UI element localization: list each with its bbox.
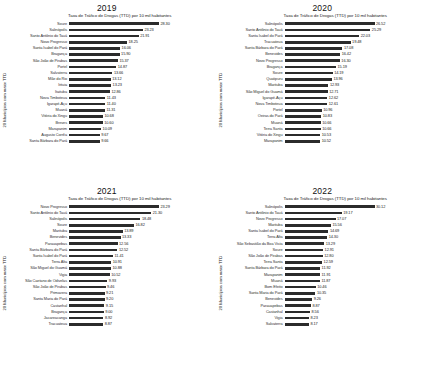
multi-panel-bar-chart-figure: 2019 Taxa de Tráfico de Drogas (TTD) por… <box>0 0 431 366</box>
bar <box>285 22 375 25</box>
bar <box>69 47 120 50</box>
bar-row: Marapanim10.52 <box>225 138 428 144</box>
axis-title-2019: Taxa de Tráfico de Drogas (TTD) por 10 m… <box>28 14 212 19</box>
plot-area-2021: 20 Municípios com maior TTD Novo Progres… <box>2 203 212 364</box>
bar <box>285 311 311 314</box>
bar <box>69 317 103 320</box>
bar <box>69 109 105 112</box>
bar <box>69 242 118 245</box>
bar <box>69 212 151 215</box>
bar <box>69 53 120 56</box>
bar <box>69 280 107 283</box>
bar <box>69 35 139 38</box>
bar-value-label: 8.17 <box>309 321 318 327</box>
bar-list-2021: Novo Progresso23.29Santo Antônio do Tauá… <box>9 203 212 364</box>
bar <box>285 292 316 295</box>
bar <box>69 311 104 314</box>
bar-list-2019: Soure28.30Salinópolis23.23Santo Antônio … <box>9 20 212 181</box>
bar <box>285 249 324 252</box>
bar <box>285 261 323 264</box>
bar <box>285 255 323 258</box>
plot-area-2022: 20 Municípios com maior TTD Salinópolis3… <box>218 203 428 364</box>
panel-2021: 2021 Taxa de Tráfico de Drogas (TTD) por… <box>0 183 216 366</box>
plot-area-2019: 20 Municípios com maior TTD Soure28.30Sa… <box>2 20 212 181</box>
bar <box>285 66 337 69</box>
bar-track: 10.52 <box>285 138 428 144</box>
axis-title-2021: Taxa de Tráfico de Drogas (TTD) por 10 m… <box>28 197 212 202</box>
bar <box>69 267 111 270</box>
bar-value-label: 10.52 <box>320 138 331 144</box>
panel-2019: 2019 Taxa de Tráfico de Drogas (TTD) por… <box>0 0 216 183</box>
bar <box>285 267 321 270</box>
bar <box>285 84 329 87</box>
bar <box>285 140 321 143</box>
bar <box>285 317 310 320</box>
bar-row: Santa Bárbara do Pará9.66 <box>9 138 212 144</box>
bar <box>285 47 343 50</box>
bar-category-label: Tracuateua <box>9 321 69 327</box>
bar <box>69 236 121 239</box>
y-axis-label-2022: 20 Municípios com maior TTD <box>218 203 225 364</box>
bar-list-2020: Salinópolis26.52Santo Antônio do Tauá25.… <box>225 20 428 181</box>
bar <box>285 103 328 106</box>
y-axis-label-2021: 20 Municípios com maior TTD <box>2 203 9 364</box>
bar <box>285 90 328 93</box>
bar <box>285 72 333 75</box>
bar-row: Tracuateua8.87 <box>9 321 212 327</box>
bar <box>69 103 105 106</box>
panel-2022: 2022 Taxa de Tráfico de Drogas (TTD) por… <box>216 183 431 366</box>
bar-value-label: 8.87 <box>103 321 112 327</box>
bar <box>69 134 100 137</box>
bar <box>285 280 320 283</box>
bar-category-label: Salvaterra <box>225 321 285 327</box>
bar-list-2022: Salinópolis30.12Santo Antônio do Tauá19.… <box>225 203 428 364</box>
bar <box>69 230 123 233</box>
bar <box>69 78 111 81</box>
bar <box>69 292 105 295</box>
bar <box>69 59 118 62</box>
bar <box>285 128 321 131</box>
bar <box>69 115 103 118</box>
bar <box>69 66 116 69</box>
bar <box>69 29 143 32</box>
bar <box>69 323 103 326</box>
bar <box>69 72 112 75</box>
bar <box>285 230 329 233</box>
bar <box>69 261 111 264</box>
bar <box>69 205 159 208</box>
bar <box>69 249 117 252</box>
bar-category-label: Marapanim <box>225 138 285 144</box>
bar <box>285 78 332 81</box>
axis-title-2022: Taxa de Tráfico de Drogas (TTD) por 10 m… <box>244 197 428 202</box>
bar <box>285 286 316 289</box>
bar-row: Salvaterra8.17 <box>225 321 428 327</box>
bar <box>285 29 371 32</box>
bar <box>69 224 134 227</box>
bar <box>285 224 331 227</box>
bar <box>285 323 309 326</box>
bar <box>285 218 336 221</box>
bar <box>285 97 328 100</box>
bar <box>285 41 351 44</box>
bar <box>69 218 140 221</box>
bar-track: 9.66 <box>69 138 212 144</box>
bar <box>285 109 322 112</box>
plot-area-2020: 20 Municípios com maior TTD Salinópolis2… <box>218 20 428 181</box>
bar <box>69 298 105 301</box>
y-axis-label-2020: 20 Municípios com maior TTD <box>218 20 225 181</box>
bar <box>69 121 103 124</box>
bar <box>69 286 106 289</box>
bar <box>285 298 313 301</box>
panel-title-2020: 2020 <box>218 4 428 13</box>
bar <box>285 35 360 38</box>
bar <box>285 212 342 215</box>
bar <box>69 304 104 307</box>
bar-category-label: Santa Bárbara do Pará <box>9 138 69 144</box>
bar <box>69 22 159 25</box>
bar <box>69 41 127 44</box>
bar <box>69 97 105 100</box>
bar <box>69 84 111 87</box>
bar <box>285 134 321 137</box>
axis-title-2020: Taxa de Tráfico de Drogas (TTD) por 10 m… <box>244 14 428 19</box>
bar <box>69 90 110 93</box>
